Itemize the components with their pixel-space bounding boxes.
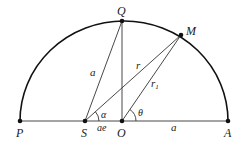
point-P	[18, 119, 23, 124]
label-angle-theta: θ	[138, 107, 143, 118]
label-segment-SM: r	[136, 59, 141, 71]
segment-SM	[85, 35, 181, 121]
label-segment-OM: r1	[151, 77, 159, 91]
point-A	[226, 119, 231, 124]
point-Q	[120, 19, 125, 24]
label-Q: Q	[117, 4, 126, 18]
point-M	[179, 33, 184, 38]
angle-arc-alpha	[95, 112, 99, 121]
angle-arc-theta	[130, 110, 136, 122]
semicircle-arc	[20, 21, 228, 121]
point-O	[120, 119, 125, 124]
ellipse-diagram: P S O A Q M a r r1 ae a α θ	[0, 0, 245, 146]
label-segment-OA: a	[171, 121, 177, 133]
label-segment-SO: ae	[97, 122, 107, 133]
diagram-svg: P S O A Q M a r r1 ae a α θ	[0, 0, 245, 146]
point-S	[83, 119, 88, 124]
label-P: P	[15, 126, 24, 140]
label-angle-alpha: α	[101, 109, 107, 120]
label-segment-SQ: a	[90, 66, 96, 78]
label-O: O	[117, 126, 126, 140]
label-A: A	[223, 126, 232, 140]
label-S: S	[81, 126, 87, 140]
label-M: M	[185, 24, 197, 38]
